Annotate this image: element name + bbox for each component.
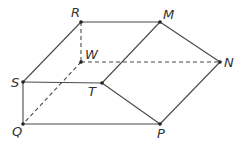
vertex-label-N: N bbox=[224, 55, 234, 70]
edge-ST bbox=[23, 82, 102, 83]
vertex-label-P: P bbox=[157, 126, 165, 141]
vertex-dot-R bbox=[79, 20, 83, 24]
edge-NP bbox=[160, 62, 220, 124]
prism-diagram: RMWNSTQP bbox=[0, 0, 243, 149]
vertex-dot-M bbox=[158, 20, 162, 24]
vertex-dot-S bbox=[21, 80, 25, 84]
edge-MN bbox=[160, 22, 220, 62]
edge-RS bbox=[23, 22, 81, 82]
vertex-dot-T bbox=[100, 81, 104, 85]
visible-edges bbox=[23, 22, 220, 124]
vertex-dots bbox=[21, 20, 222, 126]
hidden-edges bbox=[23, 22, 220, 124]
vertex-dot-W bbox=[79, 60, 83, 64]
vertex-label-S: S bbox=[11, 75, 19, 90]
edge-TP bbox=[102, 83, 160, 124]
vertex-label-R: R bbox=[71, 5, 80, 20]
vertex-labels: RMWNSTQP bbox=[11, 5, 234, 141]
vertex-dot-N bbox=[218, 60, 222, 64]
vertex-label-Q: Q bbox=[12, 124, 22, 139]
vertex-label-M: M bbox=[163, 7, 174, 22]
hidden-edge-WQ bbox=[23, 62, 81, 124]
edge-MT bbox=[102, 22, 160, 83]
vertex-label-W: W bbox=[85, 47, 99, 62]
vertex-label-T: T bbox=[88, 84, 97, 99]
